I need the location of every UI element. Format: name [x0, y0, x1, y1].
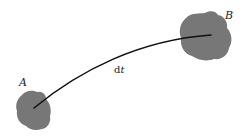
label-b: B	[225, 10, 233, 21]
blob-a	[16, 91, 51, 130]
label-dt: dt	[114, 65, 124, 75]
label-dt-t: t	[120, 64, 124, 75]
label-a: A	[19, 77, 27, 88]
